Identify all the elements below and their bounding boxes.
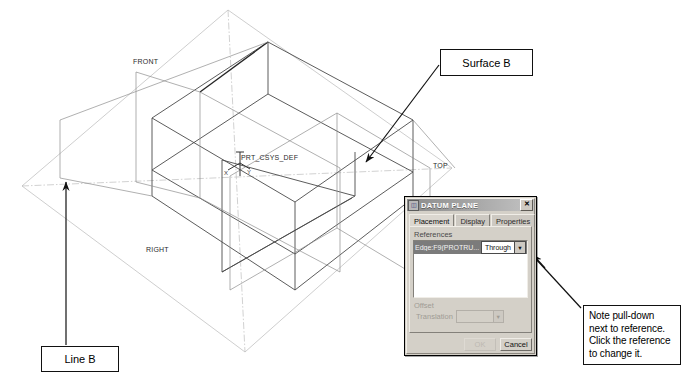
cancel-button[interactable]: Cancel (500, 338, 532, 351)
datum-plane-dashdot (22, 10, 452, 352)
close-icon[interactable]: ✕ (520, 199, 533, 211)
datum-label-right: RIGHT (146, 246, 169, 253)
csys-axis-y-label: Y (247, 169, 251, 175)
leader-surface-b (366, 65, 439, 162)
reference-constraint-value: Through (482, 242, 514, 253)
translation-label: Translation (416, 312, 453, 321)
callout-note-text: Note pull-down next to reference. Click … (589, 310, 670, 359)
datum-label-top: TOP (433, 162, 448, 169)
tab-properties-label: Properties (496, 217, 530, 226)
offset-group-label: Offset (414, 301, 434, 310)
callout-note: Note pull-down next to reference. Click … (583, 305, 681, 365)
callout-line-b: Line B (41, 346, 119, 372)
callout-surface-b-label: Surface B (462, 57, 510, 69)
reference-row[interactable]: Edge:F9(PROTRU... Through ▼ (414, 241, 527, 254)
translation-dropdown: ▼ (456, 310, 504, 323)
solid-lower-slab (152, 170, 413, 290)
tab-placement-label: Placement (414, 217, 449, 226)
datum-plane-right (230, 113, 430, 290)
tab-display-label: Display (460, 217, 485, 226)
dialog-titlebar[interactable]: ◫ DATUM PLANE ✕ (407, 199, 534, 211)
callout-line-b-label: Line B (64, 353, 95, 365)
cancel-button-label: Cancel (504, 340, 527, 349)
dialog-button-row[interactable]: OK Cancel (409, 337, 532, 352)
references-group-label: References (414, 230, 452, 239)
ok-button-label: OK (475, 340, 486, 349)
references-listbox[interactable]: Edge:F9(PROTRU... Through ▼ (413, 240, 528, 298)
translation-row: Translation ▼ (416, 310, 504, 323)
reference-constraint-dropdown[interactable]: Through ▼ (481, 241, 526, 254)
datum-crossing-lines (60, 42, 455, 196)
ok-button[interactable]: OK (464, 338, 496, 351)
datum-plane-icon: ◫ (408, 200, 419, 211)
dialog-title: DATUM PLANE (421, 201, 520, 210)
datum-plane-dialog[interactable]: ◫ DATUM PLANE ✕ Placement Display Proper… (404, 196, 537, 356)
datum-plane-front (136, 72, 340, 272)
callout-surface-b: Surface B (440, 49, 533, 76)
chevron-down-icon: ▼ (493, 311, 503, 322)
chevron-down-icon[interactable]: ▼ (514, 242, 525, 253)
datum-label-front: FRONT (133, 58, 159, 65)
csys-axis-x-label: X (224, 170, 228, 176)
solid-top-face (152, 42, 413, 202)
csys-label: PRT_CSYS_DEF (241, 154, 298, 162)
screenshot-root: FRONT TOP RIGHT PRT_CSYS_DEF X Y Surface… (0, 0, 685, 389)
reference-row-label: Edge:F9(PROTRU... (415, 244, 481, 251)
datum-plane-top (22, 10, 452, 352)
placement-panel: References Edge:F9(PROTRU... Through ▼ O… (409, 226, 532, 333)
